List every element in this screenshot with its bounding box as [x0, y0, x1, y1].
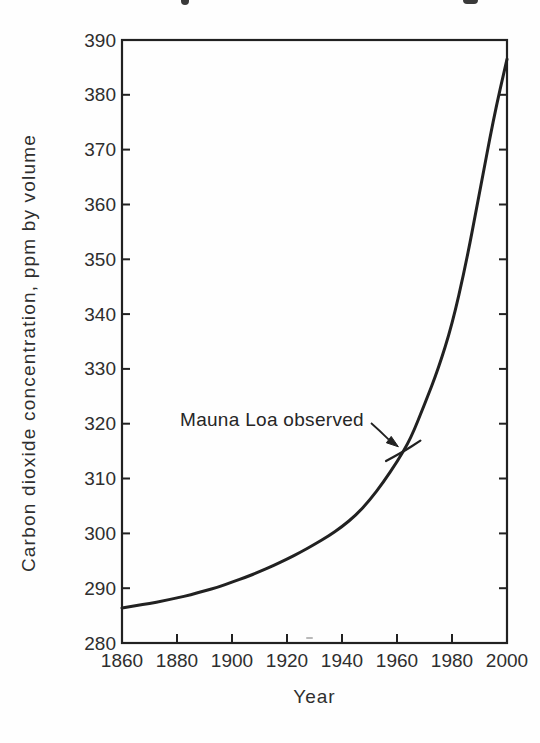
y-tick-label: 300 [84, 523, 116, 544]
x-tick-label: 1860 [101, 650, 143, 671]
co2-curve [122, 59, 507, 608]
y-tick-label: 360 [84, 194, 116, 215]
x-tick-label: 1900 [211, 650, 253, 671]
x-axis-title: Year [122, 686, 507, 708]
plot-frame [122, 40, 507, 643]
y-tick-label: 330 [84, 358, 116, 379]
mauna-loa-annotation-label: Mauna Loa observed [180, 409, 364, 431]
y-tick-label: 350 [84, 249, 116, 270]
x-tick-label: 1980 [431, 650, 473, 671]
y-tick-label: 390 [84, 30, 116, 51]
y-tick-label: 290 [84, 578, 116, 599]
y-tick-label: 340 [84, 304, 116, 325]
x-tick-label: 1880 [156, 650, 198, 671]
x-tick-label: 1940 [321, 650, 363, 671]
y-tick-label: 320 [84, 413, 116, 434]
y-axis-title: Carbon dioxide concentration, ppm by vol… [18, 103, 40, 603]
x-tick-label: 1960 [376, 650, 418, 671]
co2-line-chart: 2802903003103203303403503603703803901860… [0, 0, 540, 743]
figure-page: 2802903003103203303403503603703803901860… [0, 0, 540, 743]
y-tick-label: 310 [84, 468, 116, 489]
y-tick-label: 370 [84, 139, 116, 160]
y-tick-label: 380 [84, 84, 116, 105]
x-tick-label: 2000 [486, 650, 528, 671]
x-tick-label: 1920 [266, 650, 308, 671]
annotation-arrow-shaft [371, 423, 389, 440]
